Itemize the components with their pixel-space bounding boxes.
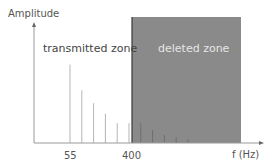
x-tick-label-55: 55	[64, 150, 77, 161]
deleted-zone-region	[132, 17, 241, 143]
y-axis-label: Amplitude	[8, 8, 59, 19]
transmitted-zone-label: transmitted zone	[43, 42, 137, 55]
x-axis-arrow-icon	[259, 141, 264, 145]
x-tick-label-400: 400	[122, 150, 141, 161]
y-axis-arrow-icon	[32, 22, 36, 27]
spectrum-chart: transmitted zone deleted zone Amplitude …	[0, 0, 276, 168]
deleted-zone-label: deleted zone	[158, 42, 230, 55]
x-axis-label: f (Hz)	[232, 149, 259, 160]
